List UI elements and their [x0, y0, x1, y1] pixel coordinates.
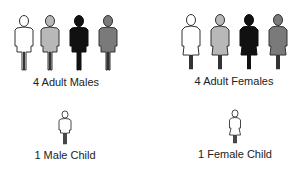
adult-male-icon	[13, 14, 35, 72]
adult-female-icon	[209, 13, 231, 71]
adult-females-label: 4 Adult Females	[195, 75, 274, 87]
adult-female-icon	[267, 13, 289, 71]
female-child-label: 1 Female Child	[198, 148, 272, 160]
adult-female-icon	[238, 13, 260, 71]
adult-female-icon	[180, 13, 202, 71]
female-child-icon	[228, 109, 242, 144]
adult-males-label: 4 Adult Males	[33, 76, 99, 88]
adult-male-icon	[68, 14, 90, 72]
adult-male-icon	[97, 14, 119, 72]
adult-male-icon	[39, 14, 61, 72]
male-child-label: 1 Male Child	[34, 149, 95, 161]
male-child-icon	[58, 110, 72, 145]
